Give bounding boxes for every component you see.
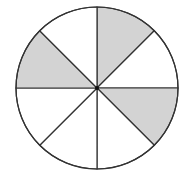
center-point bbox=[95, 86, 99, 90]
fraction-circle-diagram bbox=[0, 0, 186, 173]
pie-svg bbox=[0, 0, 186, 173]
